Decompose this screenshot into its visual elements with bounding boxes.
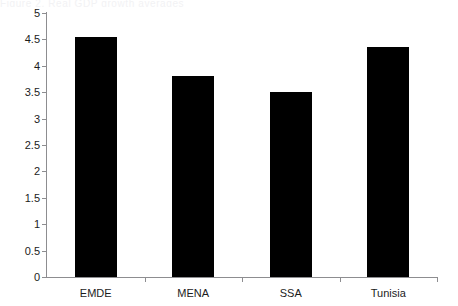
x-tick-label: SSA bbox=[280, 287, 302, 299]
bar bbox=[367, 47, 409, 277]
y-tick-label: 0.5 bbox=[25, 245, 40, 256]
y-tick-label: 3 bbox=[34, 113, 40, 124]
x-tick-label: EMDE bbox=[80, 287, 112, 299]
bar bbox=[270, 92, 312, 277]
y-tick-label: 3.5 bbox=[25, 87, 40, 98]
x-tick-mark bbox=[242, 277, 243, 282]
bar bbox=[172, 76, 214, 277]
y-tick-label: 5 bbox=[34, 8, 40, 19]
x-tick-mark bbox=[145, 277, 146, 282]
y-tick-label: 4 bbox=[34, 60, 40, 71]
clipped-title-artifact: Figure 2. Real GDP growth averages bbox=[0, 0, 458, 7]
x-tick-mark bbox=[340, 277, 341, 282]
bar-chart: Figure 2. Real GDP growth averages 00.51… bbox=[0, 0, 458, 306]
y-tick-label: 1.5 bbox=[25, 192, 40, 203]
y-tick-label: 1 bbox=[34, 219, 40, 230]
y-tick-label: 4.5 bbox=[25, 34, 40, 45]
y-tick-label: 2.5 bbox=[25, 140, 40, 151]
y-tick-label: 2 bbox=[34, 166, 40, 177]
x-tick-label: MENA bbox=[177, 287, 209, 299]
plot-area bbox=[47, 13, 437, 277]
y-tick-label: 0 bbox=[34, 272, 40, 283]
x-tick-mark bbox=[437, 277, 438, 282]
x-tick-label: Tunisia bbox=[371, 287, 406, 299]
bar bbox=[75, 37, 117, 277]
y-tick-mark bbox=[42, 277, 47, 278]
